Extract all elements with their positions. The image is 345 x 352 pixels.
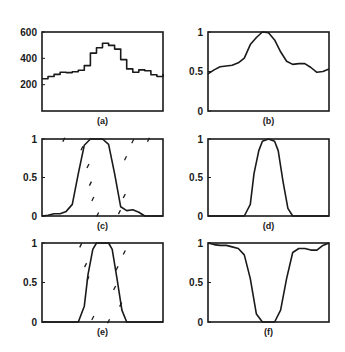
y-tick-label: 0.5 bbox=[189, 277, 203, 288]
series-line bbox=[208, 139, 329, 216]
panel-caption: (c) bbox=[97, 221, 108, 231]
y-tick-label: 600 bbox=[20, 27, 37, 38]
panel-caption: (e) bbox=[97, 327, 108, 337]
series-line bbox=[42, 43, 163, 78]
y-tick-label: 0 bbox=[31, 317, 37, 328]
axes-frame bbox=[208, 32, 329, 111]
scatter-mark bbox=[123, 250, 125, 254]
y-tick-label: 1 bbox=[31, 238, 37, 249]
figure-canvas: 200400600(a)00.51(b)00.51(c)00.51(d)00.5… bbox=[0, 0, 345, 352]
y-tick-label: 0.5 bbox=[189, 172, 203, 183]
scatter-mark bbox=[124, 156, 126, 160]
series-line bbox=[208, 32, 329, 74]
y-tick-label: 1 bbox=[197, 27, 203, 38]
y-tick-label: 400 bbox=[20, 53, 37, 64]
panel-caption: (f) bbox=[264, 327, 273, 337]
y-tick-label: 1 bbox=[31, 134, 37, 145]
scatter-mark bbox=[87, 164, 89, 168]
scatter-mark bbox=[123, 194, 125, 198]
series-line bbox=[42, 139, 163, 216]
scatter-mark bbox=[118, 210, 120, 214]
series-line bbox=[42, 243, 163, 322]
scatter-mark bbox=[116, 266, 118, 270]
scatter-mark bbox=[132, 139, 134, 143]
y-tick-label: 0 bbox=[197, 106, 203, 117]
panel-b: 00.51(b) bbox=[189, 27, 329, 127]
y-tick-label: 0 bbox=[197, 211, 203, 222]
axes-frame bbox=[208, 243, 329, 322]
panel-caption: (d) bbox=[263, 221, 275, 231]
y-tick-label: 0.5 bbox=[189, 66, 203, 77]
axes-frame bbox=[42, 139, 163, 216]
series-line bbox=[208, 243, 329, 322]
panel-caption: (b) bbox=[263, 116, 275, 126]
panel-f: 00.51(f) bbox=[189, 238, 329, 338]
scatter-mark bbox=[85, 263, 87, 267]
y-tick-label: 0.5 bbox=[23, 277, 37, 288]
panel-c: 00.51(c) bbox=[23, 134, 163, 232]
panel-e: 00.51(e) bbox=[23, 238, 163, 338]
scatter-mark bbox=[92, 197, 94, 201]
axes-frame bbox=[42, 243, 163, 322]
y-tick-label: 0 bbox=[197, 317, 203, 328]
scatter-mark bbox=[114, 286, 116, 290]
panel-a: 200400600(a) bbox=[20, 27, 163, 127]
panel-d: 00.51(d) bbox=[189, 134, 329, 232]
scatter-mark bbox=[89, 182, 91, 186]
scatter-mark bbox=[80, 243, 82, 247]
scatter-mark bbox=[92, 316, 94, 320]
panel-caption: (a) bbox=[97, 116, 108, 126]
y-tick-label: 1 bbox=[197, 134, 203, 145]
y-tick-label: 0 bbox=[31, 211, 37, 222]
y-tick-label: 200 bbox=[20, 79, 37, 90]
y-tick-label: 1 bbox=[197, 238, 203, 249]
y-tick-label: 0.5 bbox=[23, 172, 37, 183]
axes-frame bbox=[208, 139, 329, 216]
